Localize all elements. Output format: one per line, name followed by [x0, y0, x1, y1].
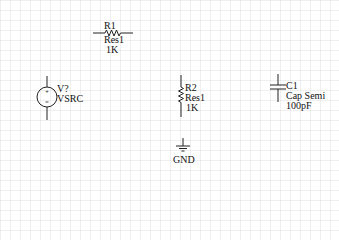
- r2-value: 1K: [186, 103, 198, 113]
- schematic-canvas[interactable]: R1 Res1 1K + V? VSRC R2 Res1 1K C1: [0, 0, 339, 198]
- ground-symbol-icon: [175, 138, 191, 152]
- gnd-label: GND: [173, 155, 195, 165]
- r1-value: 1K: [106, 45, 118, 55]
- voltage-source-symbol-icon: +: [36, 76, 58, 120]
- capacitor-symbol-icon: [268, 74, 288, 102]
- c1-value: 100pF: [286, 101, 312, 111]
- svg-text:+: +: [45, 88, 49, 94]
- r1-designator: R1: [104, 21, 116, 31]
- vsrc-comment: VSRC: [57, 94, 83, 104]
